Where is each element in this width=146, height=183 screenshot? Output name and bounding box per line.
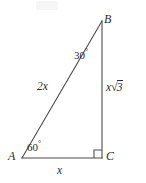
- triangle-graphic: [0, 0, 146, 183]
- vertex-label-b: B: [104, 13, 111, 25]
- right-angle-square-icon: [94, 150, 102, 158]
- angle-label-a-value: 60: [27, 141, 38, 153]
- degree-symbol-icon: °: [85, 47, 88, 56]
- radicand: 3: [117, 80, 124, 93]
- degree-symbol-icon: °: [38, 139, 41, 148]
- angle-label-b: 30°: [74, 48, 88, 61]
- triangle-diagram: B A C 30° 60° 2x x√3 x: [0, 0, 146, 183]
- angle-label-a: 60°: [27, 140, 41, 153]
- angle-label-b-value: 30: [74, 49, 85, 61]
- vertex-label-c: C: [106, 150, 114, 162]
- side-hypotenuse-ab: [22, 21, 102, 158]
- side-label-hypotenuse: 2x: [37, 81, 48, 93]
- radical-expression: x√3: [106, 81, 123, 94]
- vertex-label-a: A: [8, 150, 15, 162]
- side-label-vertical: x√3: [106, 81, 123, 94]
- side-label-base: x: [57, 165, 62, 177]
